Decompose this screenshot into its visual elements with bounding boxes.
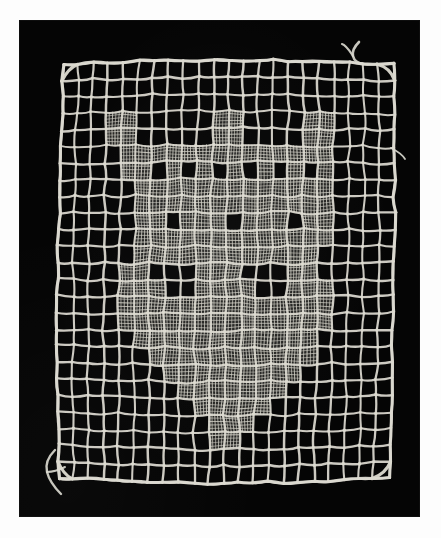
- net-knot: [136, 78, 139, 81]
- darn-warp-thread: [180, 300, 195, 301]
- darn-warp-thread: [209, 408, 224, 409]
- net-knot: [286, 328, 289, 331]
- net-knot: [316, 95, 319, 98]
- net-knot: [210, 228, 213, 231]
- darn-weft-thread: [304, 329, 305, 347]
- darned-cell-ground: [121, 144, 136, 162]
- darned-cell-ground: [229, 110, 244, 128]
- net-knot: [315, 294, 319, 298]
- darn-weft-thread: [190, 146, 191, 161]
- net-knot: [268, 347, 271, 350]
- darn-warp-thread: [195, 327, 211, 328]
- net-knot: [89, 177, 92, 180]
- darned-cell-ground: [211, 313, 226, 332]
- net-knot: [120, 178, 123, 181]
- net-knot: [297, 412, 300, 415]
- darned-cell-ground: [301, 279, 317, 296]
- darn-weft-thread: [137, 281, 138, 296]
- net-knot: [348, 177, 351, 180]
- darn-warp-thread: [118, 310, 135, 311]
- net-vertical-thread: [343, 62, 350, 480]
- darned-cell-ground: [242, 247, 258, 265]
- net-vertical-thread: [372, 64, 380, 478]
- darn-warp-thread: [195, 239, 211, 240]
- darn-weft-thread: [147, 229, 148, 246]
- net-knot: [313, 464, 317, 468]
- darn-weft-thread: [189, 314, 190, 331]
- darn-weft-thread: [280, 364, 281, 381]
- darn-warp-thread: [224, 408, 239, 409]
- net-knot: [192, 347, 195, 350]
- net-knot: [270, 296, 273, 299]
- net-knot: [120, 126, 123, 129]
- net-knot: [312, 430, 315, 433]
- darn-warp-thread: [118, 299, 135, 300]
- net-knot: [102, 446, 105, 449]
- darned-cell-ground: [258, 179, 274, 196]
- net-knot: [117, 344, 121, 348]
- net-knot: [238, 430, 241, 433]
- net-knot: [285, 396, 288, 399]
- net-knot: [315, 327, 318, 330]
- darn-weft-thread: [173, 145, 174, 161]
- net-knot: [283, 429, 286, 432]
- darn-weft-thread: [325, 112, 326, 130]
- net-knot: [224, 212, 227, 215]
- darn-weft-thread: [188, 364, 189, 382]
- darn-warp-thread: [228, 192, 244, 193]
- net-knot: [194, 144, 198, 148]
- net-knot: [147, 294, 150, 297]
- net-knot: [208, 396, 211, 399]
- net-knot: [253, 345, 257, 349]
- net-knot: [316, 177, 319, 180]
- net-knot: [300, 212, 303, 215]
- net-knot: [222, 447, 225, 450]
- net-knot: [378, 80, 381, 83]
- net-knot: [86, 279, 90, 283]
- net-knot: [147, 414, 150, 417]
- darn-warp-thread: [302, 217, 317, 218]
- darn-weft-thread: [230, 179, 231, 196]
- net-knot: [103, 462, 106, 465]
- net-knot: [302, 244, 306, 248]
- net-knot: [213, 76, 216, 79]
- net-knot: [179, 210, 182, 213]
- darn-weft-thread: [298, 329, 299, 347]
- net-knot: [332, 160, 335, 163]
- darned-cell-ground: [255, 314, 272, 329]
- darn-weft-thread: [235, 111, 236, 127]
- net-vertical-thread: [87, 62, 94, 478]
- net-knot: [101, 329, 104, 332]
- darn-warp-thread: [121, 141, 136, 142]
- darn-warp-thread: [211, 249, 227, 250]
- net-knot: [346, 261, 349, 264]
- darn-weft-thread: [167, 331, 168, 346]
- net-knot: [134, 193, 137, 196]
- net-knot: [363, 112, 366, 115]
- darn-weft-thread: [299, 280, 300, 296]
- darn-warp-thread: [195, 374, 210, 375]
- darn-weft-thread: [308, 296, 309, 313]
- darned-cell-ground: [180, 211, 196, 230]
- net-knot: [85, 377, 88, 380]
- page-root: [0, 0, 441, 538]
- net-knot: [329, 345, 332, 348]
- net-knot: [146, 445, 149, 448]
- net-knot: [375, 329, 378, 332]
- net-knot: [193, 312, 196, 315]
- net-knot: [378, 260, 381, 263]
- net-knot: [224, 430, 227, 433]
- darn-weft-thread: [164, 180, 165, 197]
- net-knot: [317, 127, 321, 131]
- net-knot: [122, 78, 125, 81]
- net-knot: [103, 162, 107, 166]
- selvage-edge: [390, 63, 396, 477]
- darned-cell-ground: [243, 179, 258, 197]
- darn-warp-thread: [135, 209, 150, 210]
- net-knot: [346, 212, 349, 215]
- darn-weft-thread: [258, 329, 259, 347]
- net-knot: [361, 262, 364, 265]
- darn-weft-thread: [176, 178, 177, 195]
- net-knot: [258, 126, 261, 129]
- darn-warp-thread: [211, 335, 225, 336]
